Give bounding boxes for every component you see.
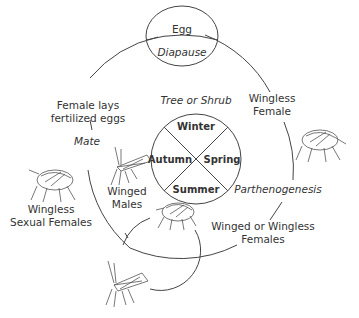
season-winter: Winter: [177, 121, 215, 132]
diapause-label: Diapause: [157, 46, 206, 58]
winged-males-line2: Males: [112, 198, 142, 210]
aphid-wingless-female-icon: [296, 130, 346, 162]
aphid-wingless-sexual-female-icon: [29, 170, 75, 202]
wingless-female-line1: Wingless: [249, 92, 296, 104]
season-summer: Summer: [173, 184, 220, 195]
mate-label: Mate: [74, 135, 100, 147]
season-wheel: Tree or Shrub Winter Spring Summer Autum…: [148, 94, 241, 204]
wingless-sexual-females-line1: Wingless: [28, 203, 75, 215]
egg-label: Egg: [172, 23, 192, 35]
wingless-sexual-females-line2: Sexual Females: [10, 216, 92, 228]
aphid-migrating-female-icon: [156, 203, 196, 230]
aphid-winged-female-icon: [106, 261, 148, 307]
aphid-winged-male-icon: [111, 147, 151, 185]
arc-eggs-to-egg: [90, 37, 158, 78]
winged-wingless-females-line2: Females: [241, 233, 284, 245]
parthenogenesis-label: Parthenogenesis: [234, 183, 322, 195]
arc-right: [284, 122, 293, 180]
winged-males-line1: Winged: [107, 185, 147, 197]
season-spring: Spring: [204, 154, 241, 165]
female-lays-line2: fertilized eggs: [51, 112, 126, 124]
aphid-life-cycle-diagram: Egg Diapause Tree or Shrub Winter Spring…: [0, 0, 359, 318]
female-lays-line1: Female lays: [57, 99, 119, 111]
season-autumn: Autumn: [148, 154, 192, 165]
migration-loop: [123, 218, 201, 290]
arc-egg-to-wingless-female: [205, 35, 270, 92]
arc-migration-upper: [123, 218, 150, 245]
host-label: Tree or Shrub: [160, 94, 232, 106]
arc-migration-lower: [150, 230, 201, 290]
stage-labels: Wingless Female Parthenogenesis Winged o…: [10, 92, 322, 245]
wingless-female-line2: Female: [253, 105, 291, 117]
arc-bottom: [130, 245, 237, 259]
arrow-parthenogenesis: [270, 202, 282, 220]
winged-wingless-females-line1: Winged or Wingless: [211, 220, 315, 232]
